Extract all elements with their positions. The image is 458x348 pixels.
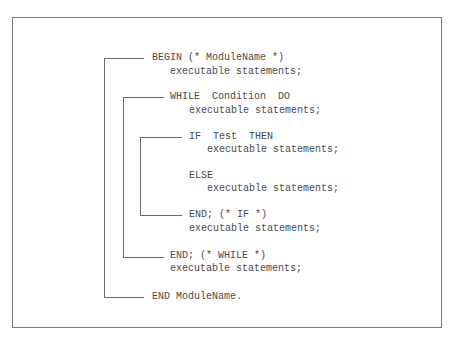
if-line: IF Test THEN — [189, 131, 273, 143]
statements-line: executable statements; — [207, 144, 339, 156]
statements-line: executable statements; — [189, 223, 321, 235]
else-line: ELSE — [189, 170, 213, 182]
statements-line: executable statements; — [170, 66, 302, 78]
statements-line: executable statements; — [189, 105, 321, 117]
if-block-bracket — [140, 137, 182, 216]
end-module-line: END ModuleName. — [152, 291, 242, 303]
while-line: WHILE Condition DO — [170, 91, 290, 103]
statements-line: executable statements; — [207, 183, 339, 195]
end-while-line: END; (* WHILE *) — [170, 250, 266, 262]
statements-line: executable statements; — [170, 263, 302, 275]
end-if-line: END; (* IF *) — [189, 209, 267, 221]
begin-line: BEGIN (* ModuleName *) — [152, 52, 284, 64]
